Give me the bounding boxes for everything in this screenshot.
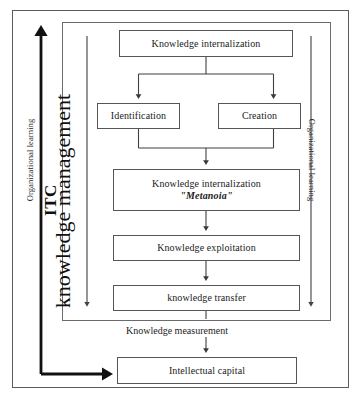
box-knowledge-internalization-label: Knowledge internalization	[152, 38, 261, 50]
diagram-canvas: Knowledge internalization Identification…	[0, 0, 361, 404]
box-knowledge-internalization-metanoia[interactable]: Knowledge internalization "Metanoia"	[113, 169, 300, 211]
box-creation-label: Creation	[242, 110, 277, 122]
label-organizational-learning-right: Organizational learning	[307, 105, 317, 215]
box-identification[interactable]: Identification	[97, 103, 180, 129]
label-organizational-learning-left: Organizational learning	[25, 105, 35, 215]
box-knowledge-exploitation[interactable]: Knowledge exploitation	[113, 235, 300, 261]
box-knowledge-exploitation-label: Knowledge exploitation	[157, 242, 256, 254]
box-metanoia-line1: Knowledge internalization	[152, 178, 261, 190]
box-knowledge-transfer[interactable]: knowledge transfer	[113, 285, 300, 311]
box-knowledge-internalization[interactable]: Knowledge internalization	[119, 30, 293, 57]
label-itc: ITC	[41, 140, 61, 260]
box-identification-label: Identification	[111, 110, 166, 122]
box-metanoia-line2: "Metanoia"	[152, 190, 261, 202]
box-creation[interactable]: Creation	[218, 103, 301, 129]
box-intellectual-capital[interactable]: Intellectual capital	[117, 357, 297, 384]
box-intellectual-capital-label: Intellectual capital	[169, 365, 245, 377]
box-metanoia-text: Knowledge internalization "Metanoia"	[152, 178, 261, 202]
label-knowledge-measurement: Knowledge measurement	[126, 325, 228, 336]
box-knowledge-transfer-label: knowledge transfer	[167, 292, 246, 304]
